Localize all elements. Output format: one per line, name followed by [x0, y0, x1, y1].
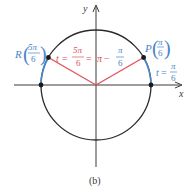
t-minus: −	[104, 53, 110, 64]
t-eq: =	[62, 53, 68, 64]
point-R	[46, 55, 51, 60]
label-t-right: t = π 6	[156, 61, 177, 83]
point-left-x-intercept	[39, 83, 44, 88]
label-P: P ( π 6 )	[144, 37, 171, 60]
point-P-name: P	[144, 42, 152, 54]
t-left-numerator2: π	[118, 45, 123, 55]
y-axis-label: y	[82, 3, 88, 14]
t-right-denominator: 6	[171, 73, 176, 83]
t-right-numerator: π	[171, 61, 176, 71]
label-R: R ( 5π 6 )	[14, 42, 47, 66]
t-pi: π	[97, 53, 103, 64]
P-arg-denominator: 6	[158, 48, 163, 58]
arc-right-highlight	[144, 58, 151, 86]
R-arg-numerator: 5π	[28, 42, 38, 52]
figure-caption: (b)	[89, 175, 101, 187]
x-axis-label: x	[178, 88, 184, 99]
point-right-x-intercept	[149, 83, 154, 88]
label-t-left: t = 5π 6 = π − π 6	[56, 45, 124, 68]
point-R-name: R	[14, 48, 22, 60]
point-P	[141, 55, 146, 60]
t-left-denominator2: 6	[118, 58, 123, 68]
unit-circle-diagram: y x R ( 5π 6 ) P ( π 6 ) t = π 6 t = 5π …	[0, 0, 195, 194]
t-eq: =	[161, 67, 167, 78]
t-var: t	[156, 67, 159, 78]
paren-right: )	[164, 37, 171, 60]
paren-right: )	[40, 43, 47, 66]
R-arg-denominator: 6	[31, 54, 36, 64]
P-arg-numerator: π	[158, 37, 163, 47]
t-var: t	[56, 53, 59, 64]
t-eq2: =	[86, 53, 92, 64]
t-left-numerator: 5π	[73, 45, 83, 55]
t-left-denominator: 6	[76, 58, 81, 68]
